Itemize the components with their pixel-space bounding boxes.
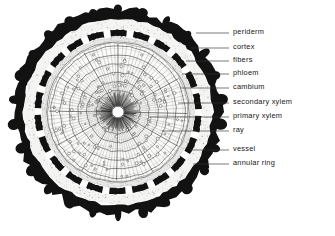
- cortex-stipple: [196, 148, 197, 149]
- periderm-lobe: [114, 4, 122, 13]
- vessel-dot: [62, 99, 64, 101]
- phloem-cell: [60, 65, 61, 66]
- phloem-cell: [122, 185, 123, 186]
- vessel-dot: [143, 66, 146, 69]
- phloem-cell: [170, 161, 171, 162]
- cortex-stipple: [79, 193, 80, 194]
- cortex-stipple: [50, 165, 51, 166]
- vessel-dot: [163, 101, 165, 103]
- cortex-stipple: [55, 52, 56, 53]
- vessel-dot: [143, 84, 145, 86]
- cortex-stipple: [155, 191, 156, 192]
- cortex-stipple: [133, 196, 134, 197]
- phloem-cell: [61, 160, 62, 161]
- cortex-stipple: [198, 85, 199, 86]
- cortex-stipple: [160, 34, 161, 35]
- vessel-dot: [158, 99, 161, 102]
- cortex-stipple: [29, 109, 30, 110]
- phloem-cell: [104, 41, 105, 42]
- vessel-dot: [145, 139, 147, 141]
- phloem-cell: [121, 184, 122, 185]
- vessel-dot: [90, 135, 93, 138]
- cortex-stipple: [81, 32, 82, 33]
- cortex-stipple: [203, 143, 204, 144]
- cortex-stipple: [101, 201, 102, 202]
- vessel-dot: [139, 115, 141, 117]
- cortex-stipple: [140, 22, 141, 23]
- cortex-stipple: [33, 137, 34, 138]
- cortex-stipple: [143, 28, 144, 29]
- phloem-cell: [44, 108, 45, 109]
- label-cortex: cortex: [233, 43, 255, 51]
- cortex-stipple: [91, 29, 92, 30]
- phloem-cell: [126, 39, 127, 40]
- cortex-stipple: [144, 198, 145, 199]
- cortex-stipple: [31, 121, 32, 122]
- cortex-stipple: [73, 183, 74, 184]
- cortex-stipple: [162, 38, 163, 39]
- vessel-dot: [154, 93, 156, 95]
- phloem-cell: [45, 127, 46, 128]
- cortex-stipple: [179, 181, 180, 182]
- cortex-stipple: [55, 56, 56, 57]
- cortex-stipple: [147, 29, 148, 30]
- vessel-dot: [122, 158, 124, 160]
- cortex-stipple: [117, 25, 118, 26]
- cortex-stipple: [207, 86, 208, 87]
- phloem-cell: [53, 77, 54, 78]
- phloem-cell: [113, 186, 114, 187]
- label-primary-xylem: primary xylem: [233, 112, 282, 120]
- cortex-stipple: [105, 194, 106, 195]
- phloem-cell: [179, 156, 180, 157]
- phloem-cell: [64, 161, 65, 162]
- vessel-dot: [97, 86, 99, 88]
- vessel-dot: [167, 95, 169, 97]
- cortex-stipple: [130, 25, 131, 26]
- vessel-dot: [98, 61, 101, 64]
- cortex-stipple: [207, 126, 208, 127]
- cortex-stipple: [131, 203, 132, 204]
- cortex-stipple: [202, 75, 203, 76]
- cortex-stipple: [37, 77, 38, 78]
- phloem-cell: [108, 186, 109, 187]
- cortex-stipple: [32, 81, 33, 82]
- phloem-cell: [100, 184, 101, 185]
- phloem-cell: [78, 51, 79, 52]
- diagram-canvas: [0, 0, 335, 236]
- phloem-cell: [189, 121, 190, 122]
- cortex-stipple: [42, 165, 43, 166]
- phloem-cell: [192, 109, 193, 110]
- cortex-stipple: [31, 128, 32, 129]
- phloem-cell: [67, 57, 68, 58]
- cortex-stipple: [33, 110, 34, 111]
- cortex-stipple: [72, 37, 73, 38]
- cortex-stipple: [56, 180, 57, 181]
- vessel-dot: [123, 84, 126, 87]
- cortex-stipple: [101, 24, 102, 25]
- vessel-dot: [88, 105, 90, 107]
- cortex-stipple: [86, 191, 87, 192]
- cortex-stipple: [27, 131, 28, 132]
- cortex-stipple: [146, 31, 147, 32]
- vessel-dot: [92, 54, 94, 56]
- cortex-stipple: [197, 140, 198, 141]
- cortex-stipple: [64, 40, 65, 41]
- phloem-cell: [107, 184, 108, 185]
- phloem-cell: [156, 49, 157, 50]
- label-secondary-xylem: secondary xylem: [233, 98, 292, 106]
- cortex-stipple: [125, 197, 126, 198]
- cortex-stipple: [98, 197, 99, 198]
- phloem-cell: [173, 159, 174, 160]
- cortex-stipple: [68, 43, 69, 44]
- cortex-stipple: [87, 33, 88, 34]
- phloem-cell: [59, 156, 60, 157]
- cortex-stipple: [65, 42, 66, 43]
- phloem-cell: [115, 186, 116, 187]
- cortex-stipple: [32, 119, 33, 120]
- cortex-stipple: [182, 56, 183, 57]
- cortex-stipple: [80, 190, 81, 191]
- cortex-stipple: [70, 180, 71, 181]
- phloem-cell: [191, 129, 192, 130]
- cortex-stipple: [188, 62, 189, 63]
- cortex-stipple: [52, 178, 53, 179]
